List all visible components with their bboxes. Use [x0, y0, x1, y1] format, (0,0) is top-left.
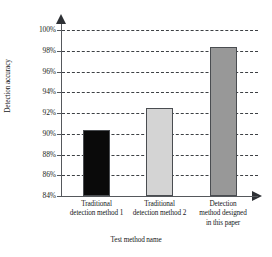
x-tick-label: Traditionaldetection method 1 — [66, 200, 128, 219]
x-tick-label-line: Traditional — [129, 200, 191, 209]
x-tick-label-line: Traditional — [66, 200, 128, 209]
y-tick-mark — [57, 196, 62, 197]
x-tick-label-line: detection method 1 — [66, 209, 128, 218]
gridline — [62, 196, 258, 197]
x-axis-title: Test method name — [0, 236, 272, 244]
x-tick-label-line: Detection — [193, 200, 253, 209]
x-tick-label-line: method designed — [193, 209, 253, 218]
y-tick-label: 86% — [2, 171, 56, 179]
bar — [83, 130, 110, 196]
bar — [146, 108, 173, 196]
y-axis-title: Detection accuracy — [4, 31, 12, 141]
y-axis-arrow-icon — [56, 14, 66, 24]
bar-chart: 84%86%88%90%92%94%96%98%100% Traditional… — [0, 0, 272, 257]
y-tick-label: 84% — [2, 192, 56, 200]
x-tick-label: Detectionmethod designedin this paper — [193, 200, 253, 228]
x-tick-label-line: detection method 2 — [129, 209, 191, 218]
plot-area — [62, 30, 258, 196]
bar — [210, 47, 237, 196]
y-tick-label: 88% — [2, 151, 56, 159]
x-tick-label-line: in this paper — [193, 219, 253, 228]
x-tick-label: Traditionaldetection method 2 — [129, 200, 191, 219]
